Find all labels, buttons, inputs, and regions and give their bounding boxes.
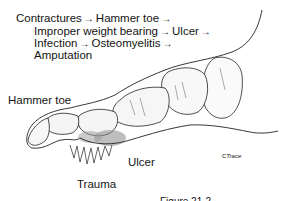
pathway-term: Amputation [34, 49, 92, 61]
arrow-icon: → [84, 13, 94, 25]
pathway-term: Infection [34, 37, 77, 49]
label-trauma: Trauma [77, 178, 116, 190]
arrow-icon: → [201, 26, 211, 38]
label-ulcer: Ulcer [128, 156, 155, 168]
label-hammer-toe: Hammer toe [8, 94, 71, 106]
pathway-line-1: Contractures→Hammer toe→ [16, 12, 173, 25]
pathway-term: Osteomyelitis [91, 37, 160, 49]
figure-caption: Figure 21-2 [160, 196, 211, 201]
pathway-term: Contractures [16, 12, 82, 24]
arrow-icon: → [163, 38, 173, 50]
pathway-term: Hammer toe [96, 12, 159, 24]
artist-signature: CTrace [222, 150, 241, 162]
arrow-icon: → [161, 13, 171, 25]
pathway-line-4: Amputation [34, 49, 92, 61]
pathway-term: Improper weight bearing [34, 25, 158, 37]
pathway-term: Ulcer [172, 25, 199, 37]
